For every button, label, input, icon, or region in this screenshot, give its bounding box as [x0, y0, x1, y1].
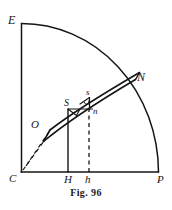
- point-label-C: C: [9, 173, 16, 184]
- point-label-N: N: [137, 71, 145, 83]
- figure-caption: Fig. 96: [0, 187, 172, 198]
- point-label-s: s: [86, 88, 90, 97]
- figure-96-diagram: E N S s n O C H h P Fig. 96: [0, 0, 172, 210]
- point-label-O: O: [31, 119, 39, 130]
- point-label-E: E: [8, 14, 15, 26]
- point-label-h: h: [85, 174, 91, 185]
- point-label-P: P: [157, 174, 164, 185]
- point-label-H: H: [64, 174, 72, 185]
- point-label-n: n: [93, 107, 98, 116]
- point-label-S: S: [64, 98, 69, 108]
